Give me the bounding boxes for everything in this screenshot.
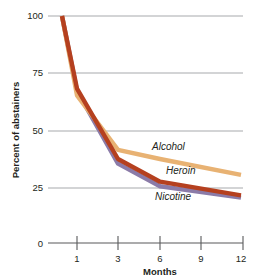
series-label-nicotine: Nicotine <box>155 191 192 202</box>
y-tick-label-50: 50 <box>32 125 43 136</box>
x-axis-title: Months <box>143 266 177 277</box>
series-labels: Alcohol Heroin Nicotine <box>151 141 196 202</box>
y-tick-labels: 100 75 50 25 0 <box>27 10 43 249</box>
y-tick-label-75: 75 <box>32 67 43 78</box>
y-axis-title: Percent of abstainers <box>10 82 21 179</box>
series-label-alcohol: Alcohol <box>151 141 186 152</box>
x-axis <box>48 236 243 250</box>
y-tick-label-0: 0 <box>38 238 43 249</box>
chart-figure: 100 75 50 25 0 1 3 6 9 12 Months Percent… <box>0 0 254 278</box>
y-tick-label-25: 25 <box>32 182 43 193</box>
line-chart: 100 75 50 25 0 1 3 6 9 12 Months Percent… <box>0 0 254 278</box>
series-label-heroin: Heroin <box>166 165 196 176</box>
x-tick-label-1: 1 <box>74 253 79 264</box>
x-tick-labels: 1 3 6 9 12 <box>74 253 246 264</box>
data-series <box>62 16 241 198</box>
x-tick-label-9: 9 <box>198 253 203 264</box>
y-tick-label-100: 100 <box>27 10 43 21</box>
x-tick-label-3: 3 <box>115 253 120 264</box>
x-tick-label-6: 6 <box>157 253 162 264</box>
x-tick-label-12: 12 <box>236 253 247 264</box>
gridlines <box>48 16 243 188</box>
